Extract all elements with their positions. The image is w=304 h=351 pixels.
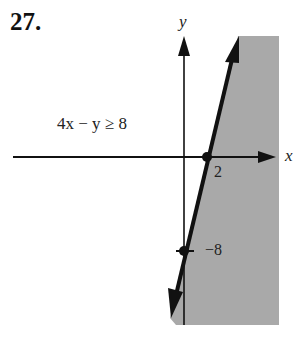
shaded-solution-region: [170, 36, 279, 325]
boundary-arrow-top-icon: [225, 36, 239, 63]
y-axis-label: y: [179, 12, 187, 32]
x-intercept-label: 2: [214, 163, 222, 181]
x-axis-label: x: [285, 146, 293, 166]
inequality-graph: [0, 0, 304, 351]
y-axis-arrow-icon: [178, 36, 190, 56]
x-intercept-point: [202, 152, 212, 162]
y-intercept-label: −8: [205, 241, 222, 259]
